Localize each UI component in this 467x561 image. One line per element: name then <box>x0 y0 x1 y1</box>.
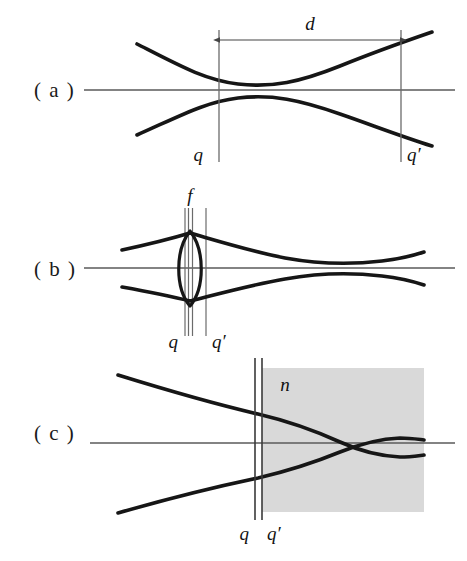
panel-b-label: ( b ) <box>34 257 77 281</box>
panel-a-label-q-prime: q′ <box>407 144 422 165</box>
panel-b-label-f: f <box>187 185 195 206</box>
panel-a-label: ( a ) <box>34 78 75 102</box>
figure-container: ( a ) q q′ d ( b ) f q q′ <box>0 0 467 561</box>
panel-b-label-q: q <box>169 331 179 352</box>
panel-a-beam-lower <box>137 97 432 146</box>
panel-c-label-n: n <box>280 374 290 395</box>
panel-a-label-q: q <box>194 144 204 165</box>
gaussian-beam-figure: ( a ) q q′ d ( b ) f q q′ <box>0 0 467 561</box>
panel-b-label-q-prime: q′ <box>212 331 227 352</box>
panel-c: ( c ) n q q′ <box>34 358 455 544</box>
panel-a: ( a ) q q′ d <box>34 13 455 165</box>
panel-c-label-q: q <box>240 523 250 544</box>
panel-b-beam-lower <box>122 274 424 301</box>
panel-b-beam-upper <box>122 233 424 263</box>
panel-b: ( b ) f q q′ <box>34 185 455 352</box>
panel-a-label-d: d <box>305 13 315 34</box>
panel-c-label-q-prime: q′ <box>267 523 282 544</box>
panel-c-label: ( c ) <box>34 421 75 445</box>
